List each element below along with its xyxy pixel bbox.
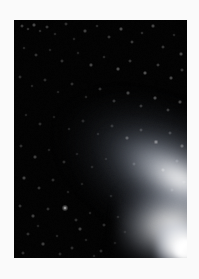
photo-page [0, 0, 199, 279]
star-field-foreground [14, 20, 187, 258]
comet-photograph [14, 20, 187, 258]
